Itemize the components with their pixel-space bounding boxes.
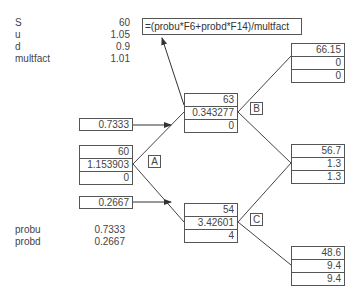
prob-label-down: probd	[15, 236, 41, 248]
prob-value-up: 0.7333	[65, 224, 125, 236]
node-c-tag: C	[250, 213, 263, 226]
node-uu-exercise-value: 0	[292, 70, 344, 82]
node-ud-price: 56.7	[292, 145, 344, 158]
node-dd-option-value: 9.4	[292, 260, 344, 273]
prob-label-up: probu	[15, 224, 41, 236]
up-probability-box: 0.7333	[79, 118, 133, 131]
param-value-s: 60	[70, 17, 130, 29]
node-a-price: 60	[80, 146, 132, 159]
node-b-price: 63	[185, 94, 237, 107]
node-a: 60 1.153903 0	[79, 145, 133, 185]
param-label-u: u	[15, 29, 21, 41]
prob-value-down: 0.2667	[65, 236, 125, 248]
node-dd-price: 48.6	[292, 247, 344, 260]
node-c-exercise-value: 4	[185, 230, 237, 242]
node-b: 63 0.343277 0	[184, 93, 238, 133]
node-uu-price: 66.15	[292, 44, 344, 57]
node-uu-option-value: 0	[292, 57, 344, 70]
param-label-d: d	[15, 41, 21, 53]
down-probability-box: 0.2667	[79, 196, 133, 209]
node-b-exercise-value: 0	[185, 120, 237, 132]
node-a-exercise-value: 0	[80, 172, 132, 184]
node-dd-exercise-value: 9.4	[292, 273, 344, 285]
node-a-tag: A	[148, 155, 161, 168]
node-c: 54 3.42601 4	[184, 203, 238, 243]
param-value-d: 0.9	[70, 41, 130, 53]
node-a-option-value: 1.153903	[80, 159, 132, 172]
node-down-down: 48.6 9.4 9.4	[291, 246, 345, 286]
node-up-up: 66.15 0 0	[291, 43, 345, 83]
node-c-price: 54	[185, 204, 237, 217]
param-value-u: 1.05	[70, 29, 130, 41]
node-ud-option-value: 1.3	[292, 158, 344, 171]
param-label-multfact: multfact	[15, 53, 50, 65]
node-up-down: 56.7 1.3 1.3	[291, 144, 345, 184]
node-b-tag: B	[250, 102, 263, 115]
node-c-option-value: 3.42601	[185, 217, 237, 230]
param-value-multfact: 1.01	[70, 53, 130, 65]
formula-callout: =(probu*F6+probd*F14)/multfact	[142, 18, 302, 35]
node-b-option-value: 0.343277	[185, 107, 237, 120]
node-ud-exercise-value: 1.3	[292, 171, 344, 183]
param-label-s: S	[15, 17, 22, 29]
